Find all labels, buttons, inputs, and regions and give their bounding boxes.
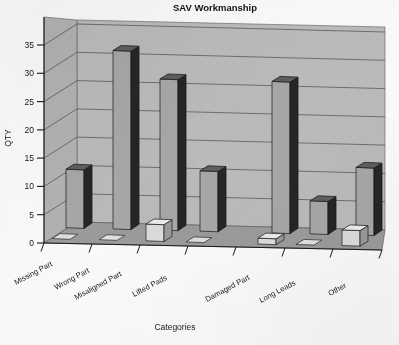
x-tick-label: Missing Part	[13, 259, 55, 287]
bar-series1-other	[356, 162, 382, 235]
y-tick-marks	[37, 45, 44, 243]
x-tick-label: Long Leads	[258, 278, 297, 305]
y-tick-label: 5	[29, 210, 34, 220]
y-axis-title: QTY	[3, 129, 13, 147]
bar-series2-other	[342, 225, 368, 246]
x-tick-labels: Missing Part Wrong Part Misaligned Part …	[13, 259, 348, 305]
bar-series1-missing-part	[66, 164, 92, 228]
x-tick-label: Other	[327, 281, 348, 298]
x-axis-title: Categories	[154, 322, 195, 332]
bar-series1-lifted-pads	[200, 166, 226, 232]
x-tick-label: Damaged Part	[204, 272, 252, 303]
x-tick-label: Lifted Pads	[131, 273, 169, 299]
chart-title: SAV Workmanship	[173, 2, 257, 13]
y-tick-label: 10	[25, 181, 35, 191]
y-tick-label: 30	[25, 68, 35, 78]
y-tick-label: 25	[25, 97, 35, 107]
y-tick-label: 15	[25, 153, 35, 163]
y-tick-label: 20	[25, 125, 35, 135]
bar-series2-misaligned-part	[146, 219, 172, 242]
bar-series1-wrong-part	[113, 46, 139, 230]
bar-series1-misaligned-part	[160, 74, 186, 231]
chart-container: SAV Workmanship	[0, 0, 399, 345]
y-tick-label: 0	[29, 238, 34, 248]
y-tick-label: 35	[25, 40, 35, 50]
bar-chart-3d: SAV Workmanship	[0, 0, 399, 345]
bar-series1-long-leads	[310, 196, 336, 235]
bar-series1-damaged-part	[272, 76, 298, 233]
y-tick-labels: 0 5 10 15 20 25 30 35	[25, 40, 35, 248]
